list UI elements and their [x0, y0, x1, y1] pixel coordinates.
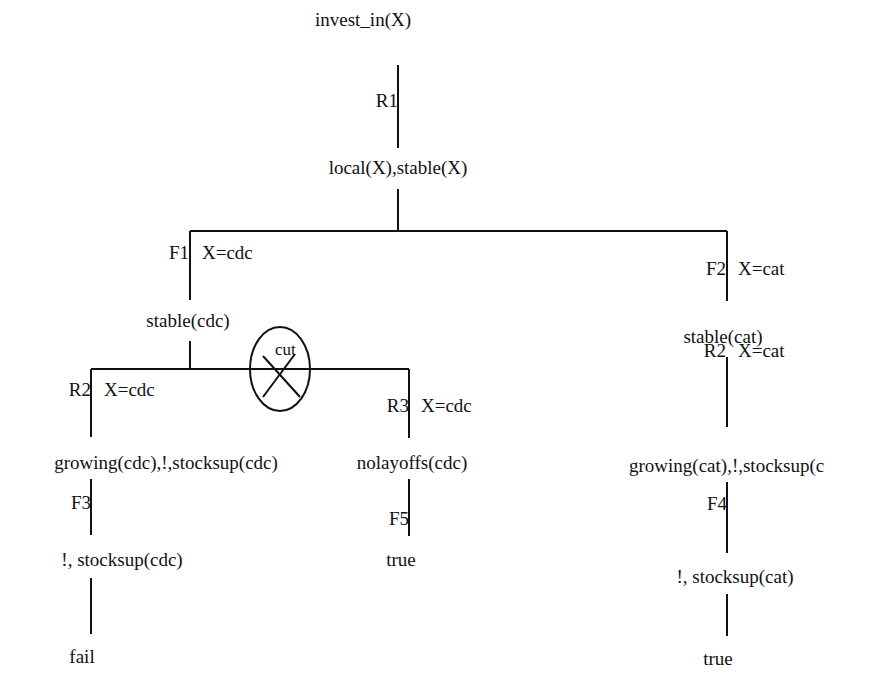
edge-label-r2-left: R2 — [69, 379, 91, 401]
edge-label-r2-right: R2 — [704, 340, 726, 362]
edge-binding-r3: X=cdc — [421, 395, 472, 417]
node-growing-cdc: growing(cdc),!,stocksup(cdc) — [54, 452, 278, 474]
edge-label-f5: F5 — [389, 508, 409, 530]
node-true-mid: true — [386, 549, 416, 571]
edge-label-r1: R1 — [376, 90, 398, 112]
edge-label-r3: R3 — [387, 395, 409, 417]
edge-label-f1: F1 — [169, 242, 189, 264]
edge-binding-r2-right: X=cat — [738, 340, 785, 362]
node-local-stable: local(X),stable(X) — [329, 157, 468, 179]
edge-label-f2: F2 — [706, 258, 726, 280]
node-stocksup-cat: !, stocksup(cat) — [676, 566, 793, 588]
node-stocksup-cdc: !, stocksup(cdc) — [61, 549, 182, 571]
edge-binding-f2: X=cat — [738, 258, 785, 280]
edge-binding-r2-left: X=cdc — [104, 379, 155, 401]
node-fail: fail — [69, 646, 94, 668]
node-growing-cat: growing(cat),!,stocksup(c — [629, 455, 824, 477]
cut-label: cut — [275, 339, 296, 361]
node-stable-cdc: stable(cdc) — [146, 310, 229, 332]
edge-binding-f1: X=cdc — [202, 242, 253, 264]
node-nolayoffs-cdc: nolayoffs(cdc) — [357, 452, 467, 474]
node-true-right: true — [703, 648, 733, 670]
node-root: invest_in(X) — [315, 9, 411, 31]
edge-label-f4: F4 — [707, 493, 727, 515]
edge-label-f3: F3 — [71, 492, 91, 514]
